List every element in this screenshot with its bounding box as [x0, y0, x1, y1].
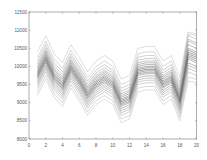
line-chart: 02468101214161820 8000850090009500100001… [0, 0, 207, 160]
series-line [37, 32, 196, 79]
x-tick-label: 10 [110, 143, 116, 148]
y-tick-label: 8500 [17, 118, 28, 123]
y-tick-label: 8000 [17, 137, 28, 142]
x-tick-label: 6 [78, 143, 81, 148]
y-tick-label: 9000 [17, 100, 28, 105]
x-tick-label: 14 [144, 143, 150, 148]
x-tick-label: 8 [95, 143, 98, 148]
x-tick-label: 18 [177, 143, 183, 148]
x-tick-label: 2 [44, 143, 47, 148]
y-tick-label: 9500 [17, 82, 28, 87]
y-tick-label: 10000 [14, 64, 27, 69]
x-tick-label: 0 [28, 143, 31, 148]
series-lines [37, 32, 196, 123]
y-tick-label: 11000 [15, 28, 28, 33]
x-tick-label: 20 [194, 143, 200, 148]
y-tick-label: 10500 [14, 46, 27, 51]
x-tick-label: 4 [61, 143, 64, 148]
x-tick-label: 16 [160, 143, 166, 148]
y-tick-label: 11500 [15, 10, 28, 15]
x-tick-label: 12 [127, 143, 133, 148]
